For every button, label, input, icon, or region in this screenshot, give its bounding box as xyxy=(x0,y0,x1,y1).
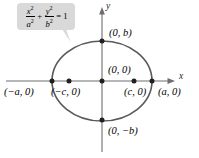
equation-rhs: = 1 xyxy=(56,12,67,21)
label-right-focus: (c, 0) xyxy=(124,87,146,98)
point-left-focus xyxy=(67,79,72,84)
label-left-focus: (−c, 0) xyxy=(51,87,80,98)
point-bottom-vertex xyxy=(100,118,105,123)
label-bottom-vertex: (0, −b) xyxy=(108,126,138,137)
label-top-vertex: (0, b) xyxy=(109,28,132,39)
ellipse-equation: x2 a2 + y2 b2 = 1 xyxy=(17,3,75,30)
ellipse-figure: x2 a2 + y2 b2 = 1 y x (0, b) (0, 0) (−a,… xyxy=(0,0,199,158)
label-left-vertex: (−a, 0) xyxy=(4,87,34,98)
label-right-vertex: (a, 0) xyxy=(158,87,181,98)
y-term-denominator: b2 xyxy=(45,17,54,28)
y-term-numerator: y2 xyxy=(45,5,54,17)
point-center xyxy=(100,79,105,84)
point-right-vertex xyxy=(150,79,155,84)
point-right-focus xyxy=(132,79,137,84)
x-axis-label: x xyxy=(179,72,183,82)
y-axis-label: y xyxy=(106,2,110,12)
point-left-vertex xyxy=(50,79,55,84)
label-center: (0, 0) xyxy=(108,65,131,76)
point-top-vertex xyxy=(100,39,105,44)
plus-sign: + xyxy=(37,12,42,21)
callout-tail xyxy=(62,29,71,42)
x-term-numerator: x2 xyxy=(26,5,35,17)
y-term-fraction: y2 b2 xyxy=(45,5,54,28)
x-term-denominator: a2 xyxy=(26,17,35,28)
x-term-fraction: x2 a2 xyxy=(26,5,35,28)
